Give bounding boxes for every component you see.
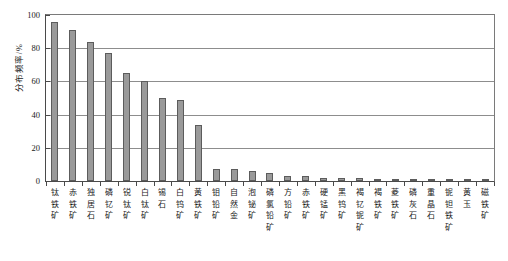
bar-slot: [351, 15, 369, 181]
bar: [123, 73, 130, 181]
bar-series: [46, 15, 494, 181]
x-tick-label: 褐铁矿: [372, 187, 384, 222]
x-tick-mark: [136, 182, 137, 186]
bar-slot: [46, 15, 64, 181]
x-tick-mark: [82, 182, 83, 186]
bar-slot: [476, 15, 494, 181]
x-tick-mark: [64, 182, 65, 186]
bar-slot: [440, 15, 458, 181]
x-tick-mark: [494, 182, 495, 186]
bar: [266, 173, 273, 181]
x-tick-label: 赤铁矿: [67, 187, 79, 222]
bar: [87, 42, 94, 181]
bar: [105, 53, 112, 181]
y-tick-label: 100: [6, 11, 40, 20]
x-tick-mark: [46, 182, 47, 186]
bar-slot: [82, 15, 100, 181]
bar-slot: [154, 15, 172, 181]
bar: [284, 176, 291, 181]
bar: [356, 178, 363, 181]
x-tick-mark: [386, 182, 387, 186]
bar-slot: [64, 15, 82, 181]
x-tick-label: 白钛矿: [139, 187, 151, 222]
bar: [392, 179, 399, 181]
x-tick-label: 方铅矿: [282, 187, 294, 222]
bar-slot: [297, 15, 315, 181]
bar: [231, 169, 238, 181]
bar-slot: [458, 15, 476, 181]
bar-chart-figure: 分布频率/% 020406080100 钛铁矿赤铁矿独居石磷钇矿锐钛矿白钛矿锡石…: [0, 0, 508, 261]
bar: [482, 179, 489, 181]
x-tick-label: 钛铁矿: [49, 187, 61, 222]
bar: [213, 169, 220, 181]
x-tick-label: 黑钨矿: [336, 187, 348, 222]
bar-slot: [136, 15, 154, 181]
x-tick-mark: [171, 182, 172, 186]
x-tick-mark: [369, 182, 370, 186]
x-tick-label: 磷灰石: [407, 187, 419, 222]
x-tick-label: 钼铅矿: [210, 187, 222, 222]
bar-slot: [261, 15, 279, 181]
x-tick-mark: [243, 182, 244, 186]
x-tick-mark: [279, 182, 280, 186]
bar: [428, 179, 435, 181]
bar: [464, 179, 471, 181]
x-tick-mark: [261, 182, 262, 186]
x-tick-label: 黄铁矿: [192, 187, 204, 222]
x-tick-mark: [404, 182, 405, 186]
x-tick-label: 泡铋矿: [246, 187, 258, 222]
bar: [195, 125, 202, 181]
y-tick-label: 20: [6, 144, 40, 153]
x-tick-label: 独居石: [85, 187, 97, 222]
x-tick-label: 褐钇铌矿: [354, 187, 366, 233]
bar: [159, 98, 166, 181]
bar: [320, 178, 327, 181]
x-tick-label: 自然金: [228, 187, 240, 222]
x-tick-mark: [207, 182, 208, 186]
x-tick-mark: [458, 182, 459, 186]
x-tick-label: 磷钇矿: [103, 187, 115, 222]
x-tick-label: 硬锰矿: [318, 187, 330, 222]
x-tick-mark: [100, 182, 101, 186]
bar: [69, 30, 76, 181]
bar-slot: [225, 15, 243, 181]
bar-slot: [171, 15, 189, 181]
x-tick-mark: [351, 182, 352, 186]
x-tick-label: 黄玉: [461, 187, 473, 210]
bar-slot: [333, 15, 351, 181]
x-axis-labels: 钛铁矿赤铁矿独居石磷钇矿锐钛矿白钛矿锡石白钨矿黄铁矿钼铅矿自然金泡铋矿磷氯铅矿方…: [46, 187, 494, 259]
bar-slot: [422, 15, 440, 181]
bar-slot: [118, 15, 136, 181]
x-tick-label: 重晶石: [425, 187, 437, 222]
y-tick-label: 40: [6, 111, 40, 120]
bar: [302, 176, 309, 181]
x-tick-mark: [154, 182, 155, 186]
x-tick-mark: [315, 182, 316, 186]
x-tick-mark: [476, 182, 477, 186]
bar-slot: [369, 15, 387, 181]
bar-slot: [243, 15, 261, 181]
x-tick-label: 铌钽铁矿: [443, 187, 455, 233]
bar: [141, 81, 148, 181]
x-tick-label: 锡石: [156, 187, 168, 210]
x-tick-mark: [225, 182, 226, 186]
x-tick-label: 磷氯铅矿: [264, 187, 276, 233]
bar-slot: [189, 15, 207, 181]
x-tick-label: 白钨矿: [174, 187, 186, 222]
x-tick-label: 菱铁矿: [389, 187, 401, 222]
x-tick-mark: [297, 182, 298, 186]
bar: [410, 179, 417, 181]
y-tick-label: 0: [6, 177, 40, 186]
bar: [51, 22, 58, 181]
bar-slot: [386, 15, 404, 181]
bar: [177, 100, 184, 181]
bar-slot: [207, 15, 225, 181]
bar: [249, 171, 256, 181]
x-tick-label: 磁铁矿: [479, 187, 491, 222]
x-tick-mark: [118, 182, 119, 186]
x-tick-label: 锐钛矿: [121, 187, 133, 222]
bar: [446, 179, 453, 181]
x-tick-mark: [440, 182, 441, 186]
bar-slot: [100, 15, 118, 181]
bar-slot: [404, 15, 422, 181]
